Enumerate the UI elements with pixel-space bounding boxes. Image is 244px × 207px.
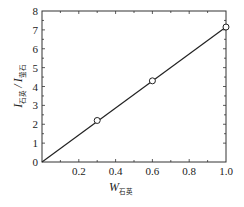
plot-frame	[42, 11, 226, 162]
x-tick-labels: 0.20.40.60.81.0	[72, 165, 233, 177]
y-tick-label: 4	[33, 81, 39, 93]
y-tick-label: 7	[33, 24, 39, 36]
y-tick-label: 2	[33, 118, 39, 130]
plot-border	[42, 11, 226, 162]
y-tick-label: 1	[33, 137, 39, 149]
y-tick-label: 8	[33, 5, 39, 17]
data-point-marker	[223, 24, 229, 30]
x-tick-label: 0.6	[146, 165, 160, 177]
y-axis-label: I石英/I萤石	[11, 64, 27, 108]
y-tick-label: 3	[33, 99, 39, 111]
x-tick-label: 1.0	[219, 165, 233, 177]
x-tick-label: 0.4	[109, 165, 123, 177]
y-tick-label: 5	[33, 62, 39, 74]
x-tick-label: 0.2	[72, 165, 86, 177]
series-layer	[42, 24, 229, 162]
y-tick-labels: 012345678	[33, 5, 39, 168]
y-tick-label: 0	[33, 156, 39, 168]
fit-line	[42, 27, 226, 162]
data-point-marker	[94, 117, 100, 123]
data-point-marker	[149, 78, 155, 84]
chart: 0.20.40.60.81.0 012345678 W石英 I石英/I萤石	[0, 0, 244, 207]
x-axis-label: W石英	[109, 180, 133, 196]
y-tick-label: 6	[33, 43, 39, 55]
axis-ticks	[42, 11, 226, 162]
x-tick-label: 0.8	[182, 165, 196, 177]
